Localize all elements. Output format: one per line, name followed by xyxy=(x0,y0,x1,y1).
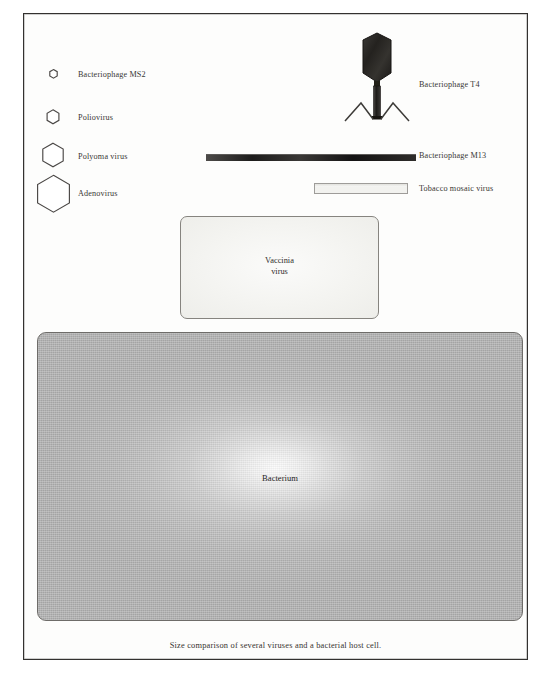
tobacco-mosaic-virus-icon xyxy=(314,183,408,194)
adenovirus-hexagon-icon xyxy=(35,174,72,214)
bacteriophage-t4-label: Bacteriophage T4 xyxy=(419,81,480,89)
poliovirus-label: Poliovirus xyxy=(78,114,113,122)
bacteriophage-ms2-hexagon-icon xyxy=(49,69,58,79)
tobacco-mosaic-virus-label: Tobacco mosaic virus xyxy=(419,185,493,193)
vaccinia-virus-shape: Vaccinia virus xyxy=(180,216,379,319)
adenovirus-label: Adenovirus xyxy=(78,190,118,198)
vaccinia-line-1: Vaccinia xyxy=(265,256,294,265)
bacteriophage-m13-label: Bacteriophage M13 xyxy=(419,152,486,160)
bacteriophage-m13-icon xyxy=(206,154,416,161)
bacteriophage-t4-icon xyxy=(331,29,423,131)
poliovirus-hexagon-icon xyxy=(46,109,60,125)
bacteriophage-ms2-label: Bacteriophage MS2 xyxy=(78,71,146,79)
polyoma-virus-label: Polyoma virus xyxy=(78,153,127,161)
figure-frame: Bacteriophage MS2 Poliovirus Polyoma vir… xyxy=(23,13,528,660)
figure-caption: Size comparison of several viruses and a… xyxy=(24,641,527,650)
bacterium-label: Bacterium xyxy=(38,473,522,483)
polyoma-virus-hexagon-icon xyxy=(41,142,65,168)
vaccinia-line-2: virus xyxy=(271,267,288,276)
bacterium-shape: Bacterium xyxy=(37,332,523,621)
vaccinia-virus-label: Vaccinia virus xyxy=(181,255,378,277)
